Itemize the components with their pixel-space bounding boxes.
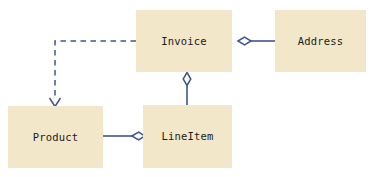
uml-class-lineitem[interactable]: LineItem [143,105,232,168]
aggregation-diamond-icon [238,37,251,45]
uml-class-name-address: Address [298,36,344,47]
uml-class-address[interactable]: Address [275,10,366,72]
relationship-invoice-lineitem[interactable] [183,73,191,106]
relationship-line-dashed [55,41,136,99]
uml-class-diagram: Invoice Address Product LineItem [0,0,376,177]
uml-class-name-product: Product [33,132,79,143]
uml-class-invoice[interactable]: Invoice [136,10,232,72]
aggregation-diamond-icon [183,73,191,86]
uml-class-name-lineitem: LineItem [161,131,213,142]
uml-class-product[interactable]: Product [8,106,103,168]
uml-class-name-invoice: Invoice [161,36,207,47]
relationship-invoice-address[interactable] [238,37,275,45]
relationship-invoice-product[interactable] [50,41,137,107]
relationship-product-lineitem[interactable] [103,132,145,140]
